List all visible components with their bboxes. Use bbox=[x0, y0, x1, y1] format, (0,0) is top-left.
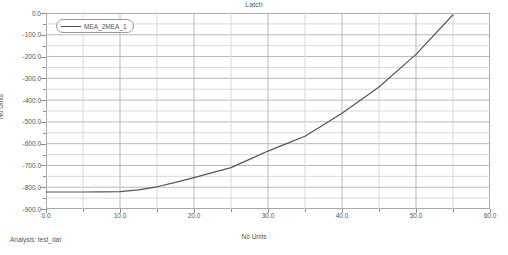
x-tick-mark bbox=[194, 209, 195, 213]
y-tick-mark bbox=[43, 89, 46, 90]
x-tick-mark bbox=[157, 209, 158, 212]
x-tick-label: 60.0 bbox=[484, 212, 497, 220]
y-tick-mark bbox=[43, 176, 46, 177]
x-axis-title: No Units bbox=[0, 233, 508, 240]
y-tick-label: -800.0 bbox=[23, 184, 41, 191]
series-line bbox=[46, 15, 453, 192]
y-tick-mark bbox=[41, 122, 46, 123]
x-tick-label: 30.0 bbox=[262, 212, 275, 220]
y-tick-mark bbox=[41, 165, 46, 166]
y-tick-mark bbox=[41, 100, 46, 101]
y-tick-label: -500.0 bbox=[23, 118, 41, 125]
y-axis-title: No Units bbox=[0, 85, 4, 129]
y-tick-label: -300.0 bbox=[23, 75, 41, 82]
x-tick-mark bbox=[342, 209, 343, 213]
x-tick-mark bbox=[490, 209, 491, 213]
y-tick-label: 0.0 bbox=[32, 10, 41, 17]
x-tick-mark bbox=[453, 209, 454, 212]
y-tick-mark bbox=[43, 67, 46, 68]
chart-page: Latch 0.0-100.0-200.0-300.0-400.0-500.0-… bbox=[0, 0, 508, 255]
y-tick-mark bbox=[41, 144, 46, 145]
x-tick-label: 40.0 bbox=[336, 212, 349, 220]
y-tick-mark bbox=[43, 24, 46, 25]
chart-legend[interactable]: MEA_2MEA_1 bbox=[56, 19, 134, 33]
series-lines bbox=[46, 13, 490, 209]
y-tick-mark bbox=[41, 13, 46, 14]
x-tick-mark bbox=[268, 209, 269, 213]
y-tick-mark bbox=[43, 155, 46, 156]
x-tick-mark bbox=[46, 209, 47, 213]
y-tick-label: -400.0 bbox=[23, 97, 41, 104]
x-tick-label: 0.0 bbox=[41, 212, 50, 220]
y-tick-mark bbox=[41, 57, 46, 58]
page-title: Latch bbox=[0, 1, 508, 8]
x-tick-mark bbox=[83, 209, 84, 212]
x-tick-mark bbox=[416, 209, 417, 213]
x-tick-mark bbox=[379, 209, 380, 212]
analysis-note: Analysis: test_dat bbox=[10, 236, 61, 243]
x-axis-tick-labels: 0.010.020.030.040.050.060.0 bbox=[46, 212, 490, 224]
legend-color-swatch bbox=[61, 26, 81, 27]
y-tick-label: -900.0 bbox=[23, 206, 41, 213]
x-tick-label: 10.0 bbox=[114, 212, 127, 220]
plot-area bbox=[46, 13, 490, 209]
x-tick-label: 20.0 bbox=[188, 212, 201, 220]
y-tick-label: -200.0 bbox=[23, 53, 41, 60]
y-tick-mark bbox=[43, 111, 46, 112]
y-tick-label: -700.0 bbox=[23, 162, 41, 169]
y-tick-mark bbox=[41, 187, 46, 188]
y-tick-mark bbox=[43, 198, 46, 199]
x-tick-mark bbox=[305, 209, 306, 212]
y-tick-mark bbox=[41, 35, 46, 36]
y-tick-mark bbox=[43, 46, 46, 47]
x-tick-mark bbox=[120, 209, 121, 213]
y-tick-mark bbox=[43, 133, 46, 134]
y-tick-label: -100.0 bbox=[23, 31, 41, 38]
x-tick-label: 50.0 bbox=[410, 212, 423, 220]
y-tick-label: -600.0 bbox=[23, 140, 41, 147]
x-tick-mark bbox=[231, 209, 232, 212]
y-axis-tick-labels: 0.0-100.0-200.0-300.0-400.0-500.0-600.0-… bbox=[0, 13, 41, 209]
y-tick-mark bbox=[41, 78, 46, 79]
legend-label: MEA_2MEA_1 bbox=[84, 23, 127, 30]
